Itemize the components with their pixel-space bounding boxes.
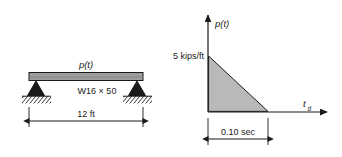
support-right-pin <box>123 81 152 103</box>
pin-triangle-left <box>28 81 45 96</box>
chart-peak-label: 5 kips/ft <box>173 51 205 61</box>
beam-diagram-group: p(t) W16 × 50 12 <box>22 59 152 127</box>
span-dimension-label: 12 ft <box>77 109 95 119</box>
ground-hatch-right <box>123 97 152 104</box>
support-left-pin <box>22 81 51 103</box>
duration-label: 0.10 sec <box>221 127 256 137</box>
pin-triangle-right <box>129 81 146 96</box>
beam-load-label: p(t) <box>78 59 93 70</box>
chart-x-axis-label-group: t d <box>303 98 312 112</box>
chart-x-axis-label-subscript: d <box>308 105 312 112</box>
load-pulse-area <box>209 56 268 111</box>
span-dimension: 12 ft <box>29 107 143 127</box>
load-time-chart-group: p(t) t d 5 kips/ft 0.10 sec <box>173 15 327 145</box>
ground-hatch-left <box>22 97 51 104</box>
beam-member <box>29 73 143 81</box>
figure-canvas: p(t) W16 × 50 12 <box>0 0 342 157</box>
beam-section-label: W16 × 50 <box>78 86 117 96</box>
engineering-figure: p(t) W16 × 50 12 <box>0 0 342 157</box>
chart-y-axis-label: p(t) <box>214 18 229 29</box>
duration-dimension: 0.10 sec <box>208 118 268 145</box>
chart-x-axis-label: t <box>303 98 306 109</box>
